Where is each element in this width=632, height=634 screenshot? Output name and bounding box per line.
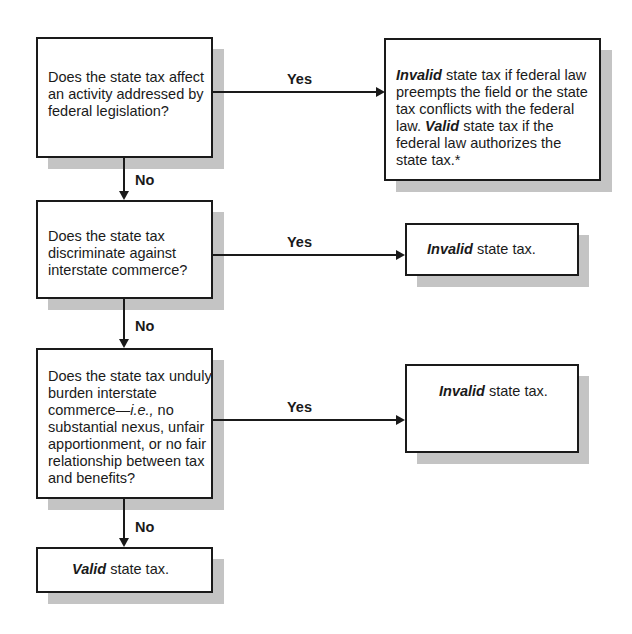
arrow-head-icon <box>396 415 405 425</box>
edge-label-yes: Yes <box>287 399 312 415</box>
result-federal-preemption: Invalid state tax if federal law preempt… <box>384 38 601 181</box>
arrow-head-icon <box>376 87 385 97</box>
valid-label: Valid <box>72 561 106 577</box>
result-valid: Valid state tax. <box>36 547 213 593</box>
edge-yes-1 <box>213 91 376 93</box>
arrow-head-icon <box>119 339 129 348</box>
edge-label-no: No <box>135 519 154 535</box>
question-discrimination: Does the state tax discriminate against … <box>36 200 213 299</box>
invalid-label: Invalid <box>396 67 442 83</box>
edge-label-yes: Yes <box>287 234 312 250</box>
edge-no-1 <box>123 158 125 192</box>
question-text: Does the state tax discriminate against … <box>48 228 208 279</box>
question-federal-legislation: Does the state tax affect an activity ad… <box>36 37 213 158</box>
arrow-head-icon <box>119 191 129 200</box>
question-text: Does the state tax affect an activity ad… <box>48 69 208 120</box>
edge-no-3 <box>123 499 125 539</box>
question-text-italic: i.e., <box>130 402 153 418</box>
result-invalid-discrimination: Invalid state tax. <box>405 223 579 276</box>
result-text-part: state tax. <box>473 241 536 257</box>
result-text-part: state tax. <box>485 383 548 399</box>
edge-label-yes: Yes <box>287 71 312 87</box>
result-text: Invalid state tax. <box>439 383 548 400</box>
edge-no-2 <box>123 299 125 340</box>
result-text: Invalid state tax if federal law preempt… <box>396 67 596 169</box>
edge-label-no: No <box>135 318 154 334</box>
result-invalid-burden: Invalid state tax. <box>405 364 579 453</box>
invalid-label: Invalid <box>427 241 473 257</box>
arrow-head-icon <box>396 250 405 260</box>
question-undue-burden: Does the state tax unduly burden interst… <box>36 348 213 499</box>
edge-yes-2 <box>213 254 397 256</box>
arrow-head-icon <box>119 538 129 547</box>
edge-yes-3 <box>213 419 397 421</box>
invalid-label: Invalid <box>439 383 485 399</box>
question-text: Does the state tax unduly burden interst… <box>48 368 213 487</box>
edge-label-no: No <box>135 172 154 188</box>
valid-label: Valid <box>425 118 459 134</box>
result-text-part: state tax. <box>106 561 169 577</box>
result-text: Valid state tax. <box>72 561 169 578</box>
result-text: Invalid state tax. <box>427 241 536 258</box>
